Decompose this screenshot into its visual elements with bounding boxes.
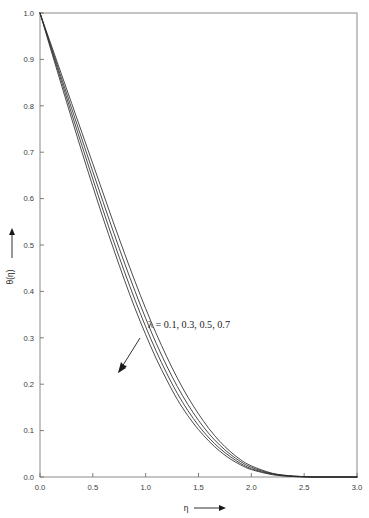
x-axis-title: η [184,503,189,513]
x-tick-label: 1.0 [140,483,151,492]
y-tick-label: 0.5 [23,241,34,250]
figure-canvas: 0.00.10.20.30.40.50.60.70.80.91.0 0.00.5… [0,0,369,518]
x-tick-label: 0.5 [88,483,99,492]
lambda-annotation: λ = 0.1, 0.3, 0.5, 0.7 [148,319,230,330]
lambda-direction-arrow [118,338,140,373]
y-tick-label: 1.0 [23,9,34,18]
y-tick-label: 0.3 [23,334,34,343]
y-tick-label: 0.2 [23,380,34,389]
y-tick-label: 0.7 [23,148,34,157]
curve-lambda-1 [40,13,357,477]
x-tick-label: 2.0 [246,483,257,492]
x-tick-label: 2.5 [299,483,310,492]
x-tick-label: 3.0 [352,483,363,492]
chart-plot: 0.00.10.20.30.40.50.60.70.80.91.0 0.00.5… [0,0,369,518]
y-tick-label: 0.0 [23,473,34,482]
y-axis-tickmarks [40,13,44,477]
x-tick-label: 1.5 [193,483,204,492]
data-curves [40,13,357,477]
x-tick-label: 0.0 [35,483,46,492]
x-axis-tickmarks [40,473,357,477]
curve-lambda-3 [40,13,357,477]
curve-lambda-0 [40,13,357,477]
y-axis-title: θ(η) [5,269,15,284]
y-tick-label: 0.6 [23,194,34,203]
x-axis-tick-labels: 0.00.51.01.52.02.53.0 [35,483,363,492]
y-axis-title-group: θ(η) [5,228,15,284]
x-axis-title-group: η [184,503,226,513]
curve-lambda-2 [40,13,357,477]
y-tick-label: 0.8 [23,102,34,111]
y-tick-label: 0.4 [23,287,34,296]
y-axis-tick-labels: 0.00.10.20.30.40.50.60.70.80.91.0 [23,9,34,482]
y-tick-label: 0.9 [23,55,34,64]
y-tick-label: 0.1 [23,426,34,435]
plot-frame [40,13,357,477]
